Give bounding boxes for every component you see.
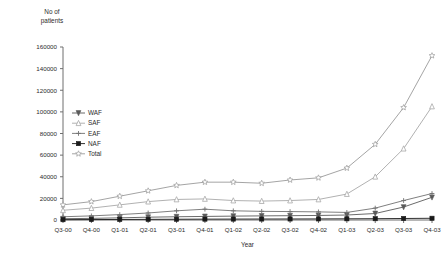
- y-tick-label: 140000: [36, 65, 57, 72]
- y-tick-label: 100000: [36, 108, 57, 115]
- series-marker-saf: [344, 191, 349, 196]
- x-tick-label: Q1-03: [338, 226, 356, 233]
- series-marker-naf: [174, 217, 178, 221]
- series-marker-naf: [345, 217, 349, 221]
- legend-label-waf: WAF: [88, 109, 102, 116]
- x-tick-label: Q3-03: [395, 226, 413, 233]
- series-marker-total: [202, 179, 208, 184]
- x-tick-label: Q4-03: [423, 226, 441, 233]
- series-line-saf: [63, 106, 432, 210]
- series-marker-total: [429, 53, 435, 58]
- series-marker-total: [174, 182, 180, 187]
- series-marker-naf: [61, 218, 65, 222]
- series-marker-naf: [89, 217, 93, 221]
- y-tick-label: 120000: [36, 87, 57, 94]
- series-marker-total: [259, 180, 265, 185]
- series-marker-naf: [231, 217, 235, 221]
- y-axis-title-line2: patients: [41, 17, 63, 25]
- series-marker-naf: [373, 217, 377, 221]
- series-marker-total: [89, 199, 95, 204]
- x-tick-label: Q3-00: [54, 226, 72, 233]
- series-marker-naf: [402, 216, 406, 220]
- y-tick-label: 20000: [40, 195, 58, 202]
- series-marker-total: [316, 175, 322, 180]
- series-line-total: [63, 56, 432, 205]
- series-marker-naf: [260, 217, 264, 221]
- y-tick-label: 160000: [36, 43, 57, 50]
- legend-label-total: Total: [88, 150, 102, 157]
- x-tick-label: Q2-01: [140, 226, 158, 233]
- y-tick-label: 40000: [40, 173, 58, 180]
- series-marker-naf: [118, 217, 122, 221]
- series-marker-total: [60, 202, 66, 207]
- series-marker-naf: [288, 217, 292, 221]
- line-chart: No ofpatients020000400006000080000100000…: [0, 0, 443, 261]
- series-marker-naf: [316, 217, 320, 221]
- legend-label-saf: SAF: [88, 119, 101, 126]
- y-tick-label: 60000: [40, 151, 58, 158]
- x-tick-label: Q1-01: [111, 226, 129, 233]
- chart-canvas: No ofpatients020000400006000080000100000…: [0, 0, 443, 261]
- x-axis-title: Year: [241, 241, 255, 248]
- series-marker-total: [230, 179, 236, 184]
- series-marker-naf: [430, 216, 434, 220]
- y-tick-label: 80000: [40, 130, 58, 137]
- legend-label-naf: NAF: [88, 140, 101, 147]
- series-marker-naf: [146, 217, 150, 221]
- x-tick-label: Q3-01: [168, 226, 186, 233]
- x-tick-label: Q1-02: [225, 226, 243, 233]
- legend-marker-naf: [76, 142, 80, 146]
- legend-marker-total: [76, 151, 82, 156]
- y-tick-label: 0: [54, 216, 58, 223]
- series-marker-total: [401, 105, 407, 110]
- x-tick-label: Q2-03: [367, 226, 385, 233]
- x-tick-label: Q2-02: [253, 226, 271, 233]
- x-tick-label: Q4-02: [310, 226, 328, 233]
- series-marker-naf: [203, 217, 207, 221]
- series-marker-total: [287, 177, 293, 182]
- series-marker-saf: [430, 104, 435, 109]
- x-tick-label: Q4-01: [196, 226, 214, 233]
- x-tick-label: Q4-00: [83, 226, 101, 233]
- x-tick-label: Q3-02: [281, 226, 299, 233]
- series-marker-total: [117, 193, 123, 198]
- series-marker-total: [145, 188, 151, 193]
- y-axis-title-line1: No of: [44, 8, 59, 15]
- legend-label-eaf: EAF: [88, 130, 101, 137]
